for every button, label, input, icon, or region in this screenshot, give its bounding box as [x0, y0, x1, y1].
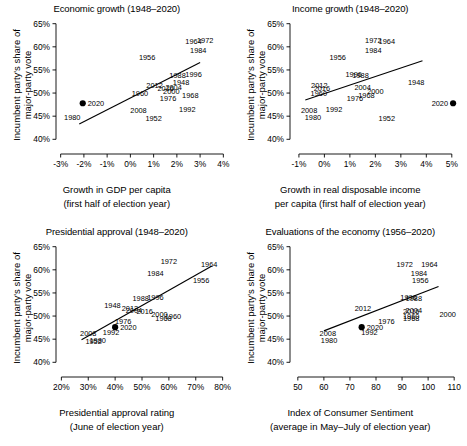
svg-text:-1%: -1%	[291, 159, 306, 169]
svg-text:2008: 2008	[300, 106, 316, 115]
svg-text:1972: 1972	[161, 257, 177, 266]
svg-text:45%: 45%	[267, 111, 284, 121]
svg-text:50%: 50%	[33, 311, 50, 321]
plot-area: 40%45%50%55%60%65%-1%0%1%2%3%4%5%1948195…	[234, 0, 467, 223]
panel-income-growth: Income growth (1948–2020) Incumbent part…	[234, 0, 467, 223]
svg-text:1980: 1980	[64, 113, 80, 122]
svg-text:3%: 3%	[394, 159, 407, 169]
svg-text:30%: 30%	[80, 382, 97, 392]
svg-text:55%: 55%	[33, 65, 50, 75]
svg-text:65%: 65%	[267, 19, 284, 29]
svg-text:1988: 1988	[169, 71, 185, 80]
svg-text:60%: 60%	[160, 382, 177, 392]
panel-economic-growth: Economic growth (1948–2020) Incumbent pa…	[0, 0, 234, 223]
svg-text:2016: 2016	[136, 307, 152, 316]
svg-text:50%: 50%	[267, 88, 284, 98]
svg-text:50%: 50%	[33, 88, 50, 98]
svg-text:2%: 2%	[369, 159, 382, 169]
svg-text:55%: 55%	[267, 288, 284, 298]
svg-text:40%: 40%	[33, 357, 50, 367]
svg-text:1992: 1992	[179, 105, 195, 114]
svg-text:55%: 55%	[267, 65, 284, 75]
svg-text:40%: 40%	[267, 357, 284, 367]
svg-text:4%: 4%	[217, 159, 230, 169]
svg-text:-2%: -2%	[76, 159, 91, 169]
svg-text:60%: 60%	[267, 265, 284, 275]
svg-text:1948: 1948	[104, 301, 120, 310]
svg-text:50: 50	[293, 382, 303, 392]
svg-text:1996: 1996	[147, 293, 163, 302]
svg-text:1984: 1984	[410, 269, 426, 278]
svg-text:1%: 1%	[148, 159, 161, 169]
svg-text:-3%: -3%	[53, 159, 68, 169]
svg-text:50%: 50%	[134, 382, 151, 392]
svg-text:60%: 60%	[267, 42, 284, 52]
svg-text:1972: 1972	[396, 260, 412, 269]
svg-text:2020: 2020	[366, 323, 382, 332]
svg-text:70%: 70%	[187, 382, 204, 392]
svg-text:1972: 1972	[365, 36, 381, 45]
svg-text:60%: 60%	[33, 42, 50, 52]
svg-text:1956: 1956	[139, 53, 155, 62]
svg-text:1968: 1968	[182, 91, 198, 100]
svg-text:1956: 1956	[329, 53, 345, 62]
svg-text:70: 70	[345, 382, 355, 392]
svg-text:45%: 45%	[33, 334, 50, 344]
svg-text:100: 100	[421, 382, 435, 392]
svg-text:1952: 1952	[378, 114, 394, 123]
svg-text:45%: 45%	[33, 111, 50, 121]
svg-text:65%: 65%	[33, 242, 50, 252]
svg-text:0%: 0%	[124, 159, 137, 169]
svg-text:20%: 20%	[53, 382, 70, 392]
svg-text:4%: 4%	[420, 159, 433, 169]
panel-presidential-approval: Presidential approval (1948–2020) Incumb…	[0, 223, 234, 446]
svg-text:1984: 1984	[190, 46, 206, 55]
svg-text:0%: 0%	[318, 159, 331, 169]
svg-text:2008: 2008	[80, 329, 96, 338]
plot-area: 40%45%50%55%60%65%-3%-2%-1%0%1%2%3%4%194…	[0, 0, 234, 223]
svg-text:90: 90	[397, 382, 407, 392]
svg-text:65%: 65%	[33, 19, 50, 29]
svg-text:1976: 1976	[346, 94, 362, 103]
plot-area: 40%45%50%55%60%65%5060708090100110195619…	[234, 223, 467, 446]
svg-text:2016: 2016	[313, 84, 329, 93]
svg-text:2020: 2020	[120, 323, 136, 332]
svg-text:1996: 1996	[345, 70, 361, 79]
svg-text:1996: 1996	[400, 293, 416, 302]
svg-text:1948: 1948	[407, 78, 423, 87]
svg-text:40%: 40%	[107, 382, 124, 392]
svg-text:1960: 1960	[132, 89, 148, 98]
svg-text:2004: 2004	[354, 83, 370, 92]
svg-text:2008: 2008	[130, 106, 146, 115]
svg-text:1%: 1%	[343, 159, 356, 169]
svg-text:2016: 2016	[157, 84, 173, 93]
svg-text:2016: 2016	[402, 307, 418, 316]
svg-text:-1%: -1%	[100, 159, 115, 169]
svg-text:110: 110	[447, 382, 461, 392]
svg-text:80: 80	[371, 382, 381, 392]
panel-economy-evaluations: Evaluations of the economy (1956–2020) I…	[234, 223, 467, 446]
svg-text:1972: 1972	[197, 36, 213, 45]
svg-text:55%: 55%	[33, 288, 50, 298]
svg-text:1996: 1996	[185, 70, 201, 79]
plot-area: 40%45%50%55%60%65%20%30%40%50%60%70%80%1…	[0, 223, 234, 446]
svg-text:2020: 2020	[88, 99, 104, 108]
svg-text:2012: 2012	[354, 304, 370, 313]
svg-text:1964: 1964	[421, 260, 437, 269]
svg-text:2000: 2000	[439, 310, 455, 319]
svg-text:80%: 80%	[214, 382, 231, 392]
chart-panel-grid: Economic growth (1948–2020) Incumbent pa…	[0, 0, 467, 446]
svg-text:40%: 40%	[33, 134, 50, 144]
svg-text:65%: 65%	[267, 242, 284, 252]
svg-text:2008: 2008	[319, 329, 335, 338]
svg-text:60%: 60%	[33, 265, 50, 275]
svg-text:60: 60	[319, 382, 329, 392]
svg-text:1952: 1952	[145, 114, 161, 123]
svg-text:50%: 50%	[267, 311, 284, 321]
svg-text:1984: 1984	[365, 46, 381, 55]
svg-text:1992: 1992	[325, 105, 341, 114]
svg-text:1956: 1956	[193, 276, 209, 285]
svg-text:45%: 45%	[267, 334, 284, 344]
svg-text:40%: 40%	[267, 134, 284, 144]
svg-text:1964: 1964	[201, 260, 217, 269]
